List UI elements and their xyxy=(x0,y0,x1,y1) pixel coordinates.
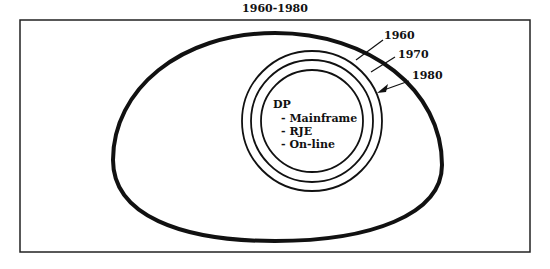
core-item-rje: - RJE xyxy=(281,125,312,138)
environment-boundary xyxy=(113,33,442,241)
core-heading: DP xyxy=(273,98,291,111)
label-1980: 1980 xyxy=(412,69,443,82)
frame-border xyxy=(20,20,530,252)
label-1960: 1960 xyxy=(384,29,415,42)
arrowhead-1980 xyxy=(377,84,388,93)
label-1970: 1970 xyxy=(398,48,429,61)
diagram-canvas: 1960 1970 1980 DP - Mainframe - RJE - On… xyxy=(0,0,550,269)
core-item-mainframe: - Mainframe xyxy=(281,112,357,125)
core-item-online: - On-line xyxy=(281,138,335,151)
